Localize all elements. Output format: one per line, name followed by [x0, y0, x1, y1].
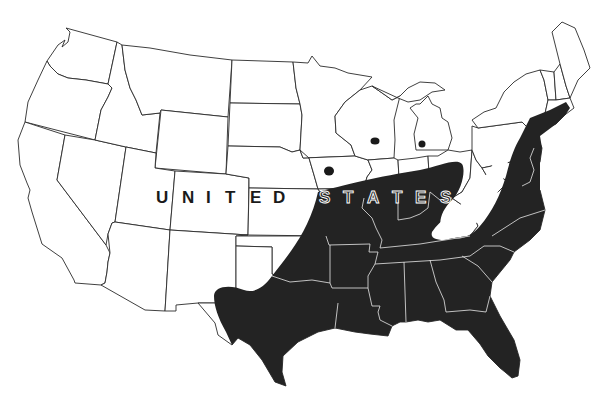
label-letter-e2: E [415, 188, 426, 207]
label-letter-e: E [250, 188, 261, 207]
state-south-dakota [228, 103, 302, 152]
label-letter-s1: S [319, 188, 330, 207]
label-letter-u: U [156, 188, 168, 207]
label-letter-t: T [225, 188, 236, 207]
state-wyoming [155, 110, 228, 174]
dot-southern-iowa [324, 167, 334, 176]
label-letter-a: A [367, 188, 379, 207]
dot-southern-michigan [419, 141, 426, 148]
map-canvas: U N I T E D S T A T E S [0, 0, 601, 395]
state-north-dakota [230, 60, 300, 104]
label-letter-d: D [273, 188, 285, 207]
label-letter-s2: S [440, 188, 451, 207]
label-letter-t3: T [392, 188, 403, 207]
dot-southern-wisconsin [371, 138, 380, 145]
us-range-map: U N I T E D S T A T E S [0, 0, 601, 395]
label-letter-i: I [206, 188, 211, 207]
label-letter-t2: T [343, 188, 354, 207]
label-letter-n: N [182, 188, 194, 207]
state-montana [122, 45, 232, 117]
state-arizona [101, 222, 170, 311]
